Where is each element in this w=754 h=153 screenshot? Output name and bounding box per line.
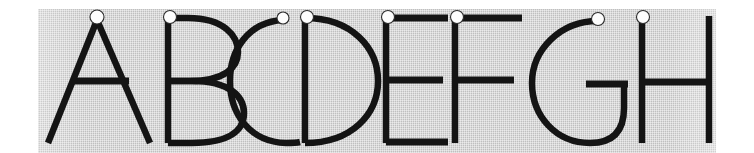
stroke-start-marker-D: [301, 11, 314, 24]
stroke-start-marker-A: [90, 10, 104, 24]
glyph-E: [386, 17, 448, 143]
stroke-start-markers: [90, 10, 650, 26]
alphabet-specimen-screenshot: Alphabet specimen A through H Eight uppe…: [0, 0, 754, 153]
stroke-start-marker-F: [451, 11, 464, 24]
stroke-start-marker-E: [382, 11, 395, 24]
stroke-start-marker-G: [592, 13, 605, 26]
glyph-F: [455, 17, 522, 143]
glyph-H: [642, 16, 709, 143]
stroke-start-marker-H: [637, 11, 650, 24]
glyph-D-bowl: [305, 18, 378, 143]
glyph-A: [48, 20, 150, 143]
stroke-start-marker-B: [164, 11, 177, 24]
glyph-G: [532, 21, 628, 143]
glyph-D: [305, 18, 378, 143]
stroke-start-marker-C: [277, 12, 289, 24]
letterform-drawing: [0, 0, 754, 153]
